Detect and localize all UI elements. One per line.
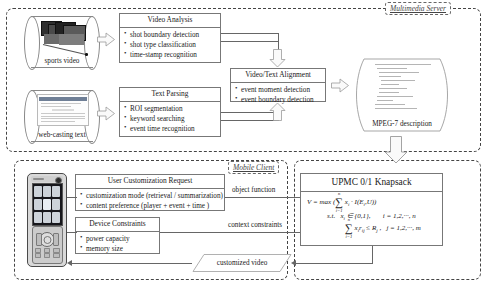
doc-text-line xyxy=(375,104,405,105)
list-item: keyword searching xyxy=(124,114,218,124)
source-label-sports-video: sports video xyxy=(31,57,93,65)
arrow-video-to-analysis xyxy=(97,32,115,47)
box-header-knapsack: UPMC 0/1 Knapsack xyxy=(301,174,442,192)
doc-text-line xyxy=(377,96,413,97)
box-header-text-parsing: Text Parsing xyxy=(120,88,220,102)
app-icon xyxy=(43,212,51,224)
source-label-web-casting-text: web-casting text xyxy=(31,131,93,139)
region-label-multimedia-server: Multimedia Server xyxy=(385,2,451,15)
connector-device-constraints-out xyxy=(67,232,77,233)
arrowhead-output-to-phone xyxy=(67,260,72,266)
list-item: memory size xyxy=(80,244,157,254)
edge-label-object-function: object function xyxy=(232,186,275,194)
doc-text-line xyxy=(381,84,399,85)
app-icon-selected xyxy=(43,199,51,211)
doc-text-line xyxy=(379,92,399,93)
thumbnail-text-line xyxy=(41,121,75,122)
connector-analysis-to-alignment-h xyxy=(221,33,278,34)
box-header-alignment: Video/Text Alignment xyxy=(231,69,325,83)
phone-key-row xyxy=(35,248,60,251)
app-icon xyxy=(34,212,42,224)
doc-text-line xyxy=(381,80,415,81)
list-item: ROI segmentation xyxy=(124,104,218,114)
list-item: content preference (player + event + tim… xyxy=(80,201,222,211)
app-icon xyxy=(34,186,42,198)
list-item: shot boundary detection xyxy=(124,30,218,40)
box-video-analysis: Video Analysis shot boundary detection s… xyxy=(119,13,221,63)
box-items-device-constraints: power capacity memory size xyxy=(76,232,159,256)
artifact-label-customized-video: customized video xyxy=(192,259,292,267)
region-label-mobile-client: Mobile Client xyxy=(228,161,279,174)
phone-app-grid xyxy=(34,186,60,224)
phone-key xyxy=(44,253,51,258)
app-icon xyxy=(52,199,60,211)
phone-screen xyxy=(32,183,63,226)
app-icon xyxy=(52,186,60,198)
box-device-constraints: Device Constraints power capacity memory… xyxy=(75,217,160,254)
thumbnail-text-line xyxy=(41,116,85,117)
box-user-customization-request: User Customization Request customization… xyxy=(75,174,225,211)
thumbnail-text-line xyxy=(52,109,74,112)
doc-text-line xyxy=(377,100,393,101)
phone-key-row xyxy=(35,253,60,256)
list-item: event moment detection xyxy=(235,85,323,95)
box-upmc-knapsack: UPMC 0/1 Knapsack V = max (∑ni=1 xi · I(… xyxy=(300,173,443,246)
arrowhead-customized-video xyxy=(291,260,296,266)
list-item: customization mode (retrieval / summariz… xyxy=(80,191,222,201)
phone-softkey-left xyxy=(36,233,42,246)
box-header-user-request: User Customization Request xyxy=(76,175,224,189)
doc-text-line xyxy=(379,88,407,89)
artifact-customized-video: customized video xyxy=(192,253,292,273)
doc-text-line xyxy=(375,64,431,65)
arrow-text-to-parsing xyxy=(97,106,115,121)
phone-softkey-right xyxy=(53,233,59,246)
sports-video-thumbnail xyxy=(39,21,85,47)
thumbnail-text-line xyxy=(41,118,85,119)
formula-line-3: ∑ni=1 xirij ≤ Rj , j = 1,2,···, m xyxy=(305,224,438,233)
video-decoration-dot xyxy=(85,53,88,56)
summation-symbol: ∑ni=1 xyxy=(345,224,353,233)
connector-output-to-phone xyxy=(72,263,192,264)
box-items-video-analysis: shot boundary detection shot type classi… xyxy=(120,28,220,63)
source-web-casting-text: web-casting text xyxy=(31,90,93,142)
doc-text-line xyxy=(375,108,417,109)
box-header-device-constraints: Device Constraints xyxy=(76,218,159,232)
phone-keypad xyxy=(32,226,63,264)
list-item: power capacity xyxy=(80,234,157,244)
box-header-video-analysis: Video Analysis xyxy=(120,14,220,28)
box-items-user-request: customization mode (retrieval / summariz… xyxy=(76,189,224,213)
list-item: event time recognition xyxy=(124,124,218,134)
connector-analysis-to-alignment-v xyxy=(278,33,279,50)
connector-knapsack-to-output xyxy=(296,263,372,264)
arrow-up-to-alignment xyxy=(269,102,286,121)
connector-user-request-out xyxy=(67,197,77,198)
phone-key xyxy=(35,253,42,258)
app-icon xyxy=(52,212,60,224)
connector-context-constraints xyxy=(160,232,315,233)
box-video-text-alignment: Video/Text Alignment event moment detect… xyxy=(230,68,326,102)
artifact-label-mpeg7: MPEG-7 description xyxy=(352,120,452,128)
formula-line-1: V = max (∑ni=1 xi · I(Ei,U)) xyxy=(305,198,438,207)
thumbnail-header-bar xyxy=(39,97,87,101)
list-item: shot type classification xyxy=(124,40,218,50)
connector-analysis-to-alignment-h2 xyxy=(221,41,278,42)
list-item: time-stamp recognition xyxy=(124,50,218,60)
arrow-alignment-to-mpeg7 xyxy=(331,78,349,93)
app-icon xyxy=(34,199,42,211)
doc-text-line xyxy=(379,76,401,77)
thumbnail-text-line xyxy=(41,103,81,104)
doc-text-line xyxy=(377,68,407,69)
box-text-parsing: Text Parsing ROI segmentation keyword se… xyxy=(119,87,221,137)
phone-key xyxy=(53,253,60,258)
summation-symbol: ∑ni=1 xyxy=(335,198,343,207)
thumbnail-text-line xyxy=(41,106,71,107)
arrow-mpeg7-to-knapsack xyxy=(384,136,408,164)
doc-text-line xyxy=(379,72,419,73)
box-items-text-parsing: ROI segmentation keyword searching event… xyxy=(120,102,220,137)
source-sports-video: sports video xyxy=(31,16,93,68)
connector-knapsack-to-output-v xyxy=(372,246,373,264)
artifact-mpeg7-description: MPEG-7 description xyxy=(352,57,452,133)
edge-label-context-constraints: context constraints xyxy=(228,221,282,229)
knapsack-formula: V = max (∑ni=1 xi · I(Ei,U)) s.t. xi ∈ {… xyxy=(301,192,442,233)
formula-line-2: s.t. xi ∈ {0,1}, i = 1,2,···, n xyxy=(305,212,438,221)
